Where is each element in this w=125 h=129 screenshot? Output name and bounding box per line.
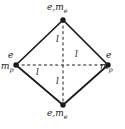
rhombus-outer-edges bbox=[16, 20, 108, 105]
vertex-dot-left bbox=[13, 62, 18, 67]
vertex-label-top: e,me bbox=[47, 2, 68, 16]
vertex-label-right-mass-symbol: m bbox=[100, 61, 109, 71]
length-label-upper-vertical: l bbox=[56, 35, 59, 44]
rhombus-figure: e,me e,me e mp e mp l l l l bbox=[0, 0, 125, 129]
vertex-label-left-mass-symbol: m bbox=[1, 61, 10, 71]
length-label-right-horizontal: l bbox=[75, 50, 78, 59]
vertex-label-bottom-mass-subscript: e bbox=[64, 113, 68, 121]
vertex-label-right-mass-subscript: p bbox=[109, 66, 113, 74]
vertex-dot-bottom bbox=[60, 102, 65, 107]
vertex-label-bottom: e,me bbox=[47, 108, 68, 122]
vertex-label-bottom-mass: m bbox=[55, 108, 64, 118]
vertex-label-right-mass: mp bbox=[100, 61, 113, 75]
vertex-dot-top bbox=[60, 17, 65, 22]
length-label-left-horizontal: l bbox=[36, 68, 39, 77]
vertex-label-left-mass: mp bbox=[1, 61, 14, 75]
edge-top-right bbox=[63, 20, 108, 65]
rhombus-diagonals bbox=[16, 20, 108, 105]
vertex-label-left-mass-subscript: p bbox=[10, 66, 14, 74]
vertex-label-top-mass-subscript: e bbox=[64, 7, 68, 15]
vertex-label-right-charge: e bbox=[106, 50, 111, 60]
vertex-label-left-charge: e bbox=[8, 50, 13, 60]
vertex-dots bbox=[13, 17, 110, 107]
length-label-lower-vertical: l bbox=[56, 77, 59, 86]
vertex-label-top-mass: m bbox=[55, 2, 64, 12]
